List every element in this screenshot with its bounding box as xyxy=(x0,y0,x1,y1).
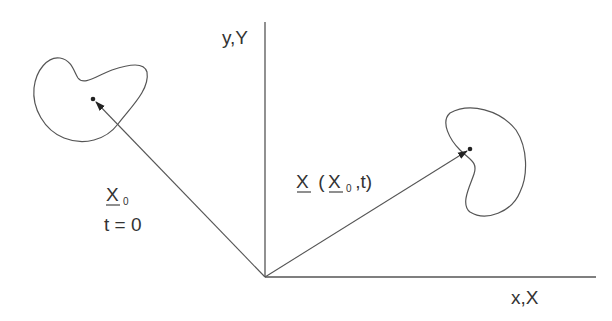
x-axis-label: x,X xyxy=(511,287,539,308)
current-open-paren: ( xyxy=(313,171,325,192)
initial-time-label: t = 0 xyxy=(104,214,142,235)
current-position-vector xyxy=(265,151,467,277)
initial-vector-subscript: 0 xyxy=(123,196,129,207)
current-body-shape xyxy=(446,108,526,216)
y-axis-label: y,Y xyxy=(222,27,248,48)
initial-position-vector xyxy=(96,102,265,277)
initial-body-shape xyxy=(34,58,148,142)
initial-vector-label: X xyxy=(106,184,119,205)
diagram-canvas: y,Y x,X X 0 t = 0 X ( X 0 ,t) xyxy=(0,0,612,321)
current-tail: ,t) xyxy=(350,171,372,192)
current-vector-label: X xyxy=(296,171,309,192)
initial-material-point xyxy=(91,97,96,102)
current-material-point xyxy=(468,147,473,152)
current-arg-label: X xyxy=(328,171,341,192)
